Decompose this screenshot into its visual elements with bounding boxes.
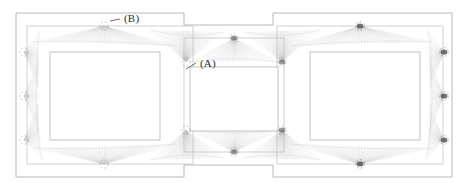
structural-plan-figure <box>0 0 468 192</box>
left-core-rect <box>50 52 160 140</box>
callout-label-b: (B) <box>124 13 139 24</box>
diagram-canvas: (A) (B) <box>0 0 468 192</box>
center-core-rect <box>190 67 278 131</box>
right-core-rect <box>310 52 420 140</box>
callout-label-a: (A) <box>200 58 216 69</box>
